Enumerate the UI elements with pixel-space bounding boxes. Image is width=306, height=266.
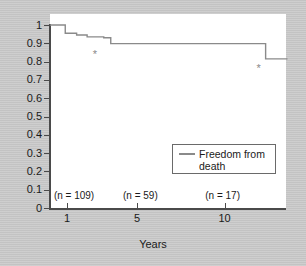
legend-line-swatch (179, 153, 195, 155)
n-at-1-year: (n = 109) (54, 191, 94, 201)
censor-asterisk: * (91, 50, 99, 58)
figure-container: 10.90.80.70.60.50.40.30.20.10 1510 ** (n… (0, 0, 306, 266)
survival-curve-svg (0, 0, 306, 266)
n-at-10-years: (n = 17) (205, 191, 240, 201)
x-axis-title: Years (0, 238, 306, 250)
legend-box: Freedom from death (172, 144, 276, 174)
censor-asterisk: * (255, 64, 263, 72)
legend-label-freedom-from-death: Freedom from death (199, 148, 275, 172)
n-at-5-years: (n = 59) (123, 191, 158, 201)
freedom-from-death-curve (50, 25, 287, 59)
